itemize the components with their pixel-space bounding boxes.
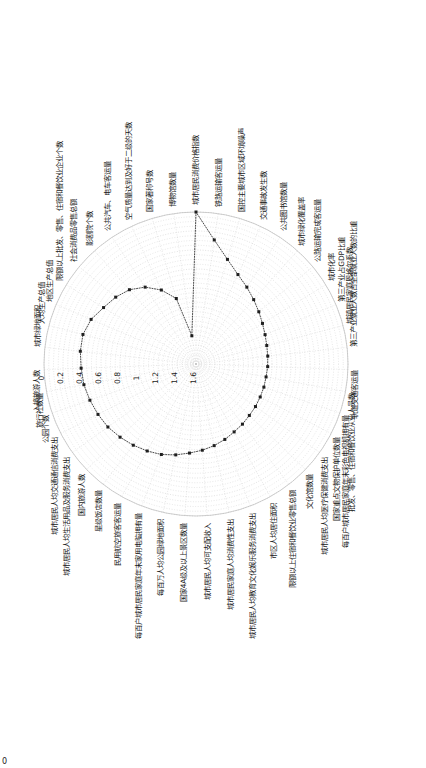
series-line xyxy=(80,212,267,455)
series-marker xyxy=(128,288,131,291)
series-marker xyxy=(265,344,268,347)
series-marker xyxy=(264,333,267,336)
series-marker xyxy=(81,333,84,336)
category-label: 国家重点文物保护单位数量 xyxy=(332,436,341,521)
spoke xyxy=(49,326,196,364)
spoke xyxy=(152,218,196,364)
rtick-group: 00.20.40.60.811.21.41.6 xyxy=(37,372,198,384)
category-label: 博物馆数量 xyxy=(168,171,177,207)
series-marker xyxy=(201,449,204,452)
series-marker xyxy=(223,438,226,441)
spoke xyxy=(196,214,218,364)
category-label: 国家著称号数 xyxy=(145,169,154,212)
spoke xyxy=(95,251,196,364)
series-marker xyxy=(213,238,216,241)
spoke xyxy=(131,226,196,364)
category-label: 市区人均居住面积 xyxy=(269,502,278,559)
spoke xyxy=(56,305,196,364)
category-label: 每百户城市居民家庭年末彩色电视机拥有量 xyxy=(341,414,350,548)
category-label: 入境旅游人数 xyxy=(32,369,41,412)
series-marker xyxy=(114,296,117,299)
series-marker xyxy=(174,453,177,456)
series-marker xyxy=(241,423,244,426)
rtick-label: 1.4 xyxy=(170,372,179,384)
series-marker xyxy=(233,430,236,433)
category-label: 城市化率 xyxy=(327,252,336,281)
category-label: 星级饭店数量 xyxy=(94,489,103,532)
category-label: 城市居民人均医疗保健消费支出 xyxy=(320,457,329,555)
spoke xyxy=(79,267,196,364)
spoke xyxy=(52,364,196,413)
series-marker xyxy=(80,367,83,370)
category-label: 限额以上批发、零售、住宿和餐饮业企业个数 xyxy=(55,140,64,281)
series-marker xyxy=(88,399,91,402)
spoke xyxy=(112,237,196,364)
category-label: 社会消费品零售总额 xyxy=(69,198,78,262)
category-label: 城市居民消费价格指数 xyxy=(191,134,200,205)
rtick-label: 1 xyxy=(132,375,141,380)
series-marker xyxy=(265,375,268,378)
category-label: 铁路运输客运量 xyxy=(214,157,223,207)
series-marker xyxy=(90,318,93,321)
category-label: 城市居民家庭人均消费性支出 xyxy=(226,519,235,610)
category-label: 城市居民人均生活用品及服务消费支出 xyxy=(62,457,71,576)
rtick-label: 0.8 xyxy=(113,372,122,384)
category-label: 城市绿化覆盖率 xyxy=(297,196,306,246)
spoke xyxy=(196,364,340,413)
category-label: 空气质量达到及好于二级的天数 xyxy=(124,121,133,220)
series-marker xyxy=(252,298,255,301)
series-marker xyxy=(190,334,193,337)
category-label: 每百户城市居民家庭年末家用电脑拥有量 xyxy=(134,512,143,639)
series-marker xyxy=(188,452,191,455)
category-label: 公共汽车、电车客运量 xyxy=(103,160,112,231)
series-marker xyxy=(132,444,135,447)
series-marker xyxy=(248,414,251,417)
series-marker xyxy=(266,365,269,368)
series-group xyxy=(79,211,269,457)
category-label: 国家4A级及以上景区数量 xyxy=(179,522,188,603)
series-marker xyxy=(236,273,239,276)
spoke xyxy=(163,364,196,512)
radar-chart: 00.20.40.60.811.21.41.6城市居民消费价格指数铁路运输客运量… xyxy=(0,0,426,768)
spoke xyxy=(196,364,320,452)
figure-canvas: 00.20.40.60.811.21.41.6城市居民消费价格指数铁路运输客运量… xyxy=(0,0,426,768)
spoke xyxy=(66,285,196,364)
series-marker xyxy=(262,386,265,389)
category-label: 城市居民人均教育文化娱乐服务消费支出 xyxy=(248,513,257,639)
corner-zero-label: 0 xyxy=(2,757,7,766)
series-marker xyxy=(144,286,147,289)
spoke xyxy=(196,218,240,364)
series-marker xyxy=(245,286,248,289)
series-marker xyxy=(160,453,163,456)
category-label: 第三产业就业人数占全部就业人数的比重 xyxy=(349,221,358,347)
series-marker xyxy=(226,258,229,261)
category-label: 国控主要城市区域环境噪声 xyxy=(237,128,246,212)
spoke xyxy=(196,326,343,364)
series-marker xyxy=(254,405,257,408)
series-marker xyxy=(160,289,163,292)
series-marker xyxy=(102,306,105,309)
category-label: 交通事故发生数 xyxy=(259,170,268,220)
category-label: 地区生产总值 xyxy=(45,259,54,302)
series-marker xyxy=(259,396,262,399)
series-marker xyxy=(106,426,109,429)
rtick-label: 0.2 xyxy=(56,372,65,384)
series-marker xyxy=(82,383,85,386)
series-marker xyxy=(195,211,198,214)
category-label: 民用航空旅客客运量 xyxy=(113,502,122,566)
category-label: 每百万人均公园绿地面积 xyxy=(156,518,165,596)
series-marker xyxy=(175,297,178,300)
rtick-label: 0.6 xyxy=(94,372,103,384)
category-label: 影剧院个数 xyxy=(85,210,94,246)
series-marker xyxy=(261,322,264,325)
series-marker xyxy=(79,350,82,353)
spoke xyxy=(196,251,297,364)
category-label: 城市居民人均可支配收入 xyxy=(203,522,212,600)
series-marker xyxy=(266,355,269,358)
category-label: 国内旅游人数 xyxy=(77,473,86,516)
rtick-label: 1.2 xyxy=(151,372,160,384)
category-label: 限额以上住宿和餐饮业零售总额 xyxy=(288,489,297,588)
category-label: 文化馆数量 xyxy=(305,473,314,509)
rtick-label: 1.6 xyxy=(189,372,198,384)
spoke xyxy=(196,347,347,364)
